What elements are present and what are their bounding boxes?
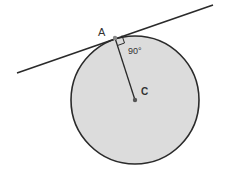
point-a (113, 36, 117, 40)
label-angle: 90° (128, 46, 142, 56)
label-a: A (98, 26, 106, 38)
center-point (133, 98, 137, 102)
tangent-diagram: A 90° C (0, 0, 234, 173)
label-center: C (141, 86, 148, 97)
